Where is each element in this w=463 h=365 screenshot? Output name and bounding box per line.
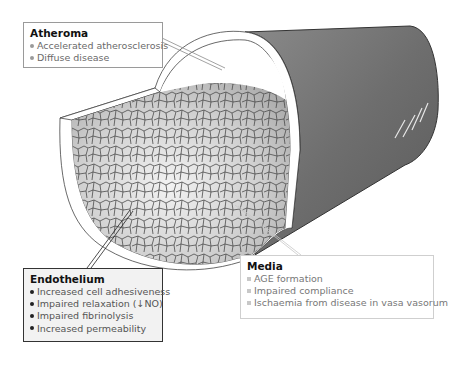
bullet-icon (30, 56, 34, 60)
bullet-icon (30, 314, 34, 318)
bullet-icon (247, 301, 251, 305)
bullet-icon (247, 289, 251, 293)
media-item: Impaired compliance (247, 285, 427, 297)
endothelium-item: Impaired relaxation (↓NO) (30, 298, 156, 310)
bullet-icon (30, 326, 34, 330)
media-title: Media (247, 260, 427, 273)
endothelium-item: Increased cell adhesiveness (30, 286, 156, 298)
bullet-icon (30, 44, 34, 48)
bullet-icon (30, 302, 34, 306)
atheroma-item: Diffuse disease (30, 52, 156, 64)
endothelium-item: Increased permeability (30, 323, 156, 335)
bullet-icon (247, 277, 251, 281)
endothelium-callout: Endothelium Increased cell adhesiveness … (23, 268, 163, 342)
atheroma-callout: Atheroma Accelerated atherosclerosis Dif… (23, 22, 163, 68)
atheroma-item: Accelerated atherosclerosis (30, 40, 156, 52)
endothelium-title: Endothelium (30, 273, 156, 286)
atheroma-title: Atheroma (30, 27, 156, 40)
endothelium-item: Impaired fibrinolysis (30, 310, 156, 322)
bullet-icon (30, 290, 34, 294)
media-item: AGE formation (247, 273, 427, 285)
media-callout: Media AGE formation Impaired compliance … (240, 255, 434, 319)
media-item: Ischaemia from disease in vasa vasorum (247, 297, 427, 309)
